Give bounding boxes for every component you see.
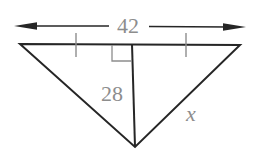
arrowhead-left-icon — [14, 22, 37, 30]
arrowhead-right-icon — [223, 23, 246, 31]
altitude-line — [132, 44, 135, 147]
dimension-line-right — [149, 27, 230, 28]
unknown-side-label: x — [185, 101, 196, 126]
triangle-outline — [20, 44, 240, 147]
geometry-diagram: 42 28 x — [0, 0, 257, 158]
right-angle-marker — [112, 45, 132, 61]
triangle-figure: 42 28 x — [0, 0, 257, 158]
altitude-label: 28 — [101, 81, 123, 106]
dimension-label: 42 — [117, 13, 139, 38]
